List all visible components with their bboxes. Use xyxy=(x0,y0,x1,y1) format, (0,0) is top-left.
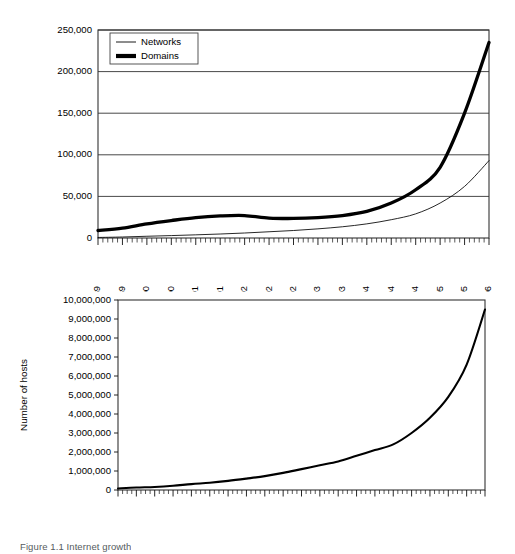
y-tick-label: 100,000 xyxy=(57,148,92,159)
y-tick-label: 50,000 xyxy=(63,190,92,201)
series-line-networks xyxy=(98,161,489,238)
number-of-hosts-plot: 01,000,0002,000,0003,000,0004,000,0005,0… xyxy=(0,292,515,530)
y-tick-label: 6,000,000 xyxy=(68,370,111,381)
chart-networks-domains: 050,000100,000150,000200,000250,0007/891… xyxy=(0,0,515,292)
series-line-domains xyxy=(98,42,489,230)
figure-page: 050,000100,000150,000200,000250,0007/891… xyxy=(0,0,515,554)
y-tick-label: 250,000 xyxy=(57,24,92,35)
y-tick-label: 10,000,000 xyxy=(63,294,111,305)
y-tick-label: 3,000,000 xyxy=(68,427,111,438)
y-tick-label: 0 xyxy=(87,232,92,243)
y-tick-label: 7,000,000 xyxy=(68,351,111,362)
y-tick-label: 8,000,000 xyxy=(68,332,111,343)
legend-label-domains: Domains xyxy=(141,50,179,61)
y-tick-label: 1,000,000 xyxy=(68,465,111,476)
figure-caption: Figure 1.1 Internet growth xyxy=(20,541,131,554)
y-tick-label: 200,000 xyxy=(57,65,92,76)
y-tick-label: 0 xyxy=(106,484,111,495)
legend-label-networks: Networks xyxy=(141,36,181,47)
y-tick-label: 150,000 xyxy=(57,107,92,118)
y-tick-label: 4,000,000 xyxy=(68,408,111,419)
series-line-hosts xyxy=(118,310,485,489)
chart-number-of-hosts: 01,000,0002,000,0003,000,0004,000,0005,0… xyxy=(0,292,515,530)
y-tick-label: 2,000,000 xyxy=(68,446,111,457)
y-tick-label: 9,000,000 xyxy=(68,313,111,324)
y-tick-label: 5,000,000 xyxy=(68,389,111,400)
networks-domains-plot: 050,000100,000150,000200,000250,0007/891… xyxy=(0,0,515,292)
y-axis-title: Number of hosts xyxy=(18,359,29,431)
